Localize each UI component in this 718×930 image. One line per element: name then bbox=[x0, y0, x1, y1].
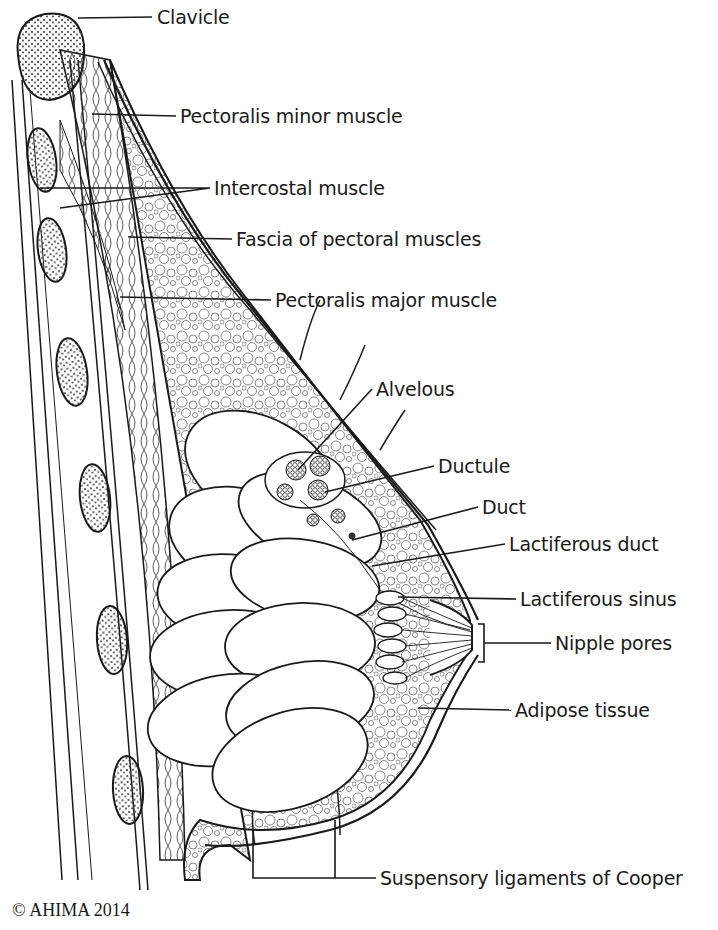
label-pectoralis-major-muscle: Pectoralis major muscle bbox=[275, 289, 497, 311]
label-adipose-tissue: Adipose tissue bbox=[515, 699, 650, 721]
label-suspensory-ligaments-of-cooper: Suspensory ligaments of Cooper bbox=[380, 867, 683, 889]
label-pectoralis-minor-muscle: Pectoralis minor muscle bbox=[180, 105, 403, 127]
breast-anatomy-illustration bbox=[0, 0, 718, 930]
label-duct: Duct bbox=[482, 496, 526, 518]
label-ductule: Ductule bbox=[438, 455, 510, 477]
copyright-notice: © AHIMA 2014 bbox=[12, 900, 130, 921]
clavicle-shape bbox=[18, 14, 85, 100]
label-clavicle: Clavicle bbox=[157, 6, 230, 28]
label-lactiferous-sinus: Lactiferous sinus bbox=[520, 588, 677, 610]
label-fascia-of-pectoral-muscles: Fascia of pectoral muscles bbox=[236, 228, 481, 250]
anatomy-diagram: Clavicle Pectoralis minor muscle Interco… bbox=[0, 0, 718, 930]
label-alveolus: Alvelous bbox=[376, 378, 454, 400]
label-lactiferous-duct: Lactiferous duct bbox=[509, 533, 659, 555]
label-nipple-pores: Nipple pores bbox=[555, 632, 672, 654]
label-intercostal-muscle: Intercostal muscle bbox=[214, 177, 385, 199]
